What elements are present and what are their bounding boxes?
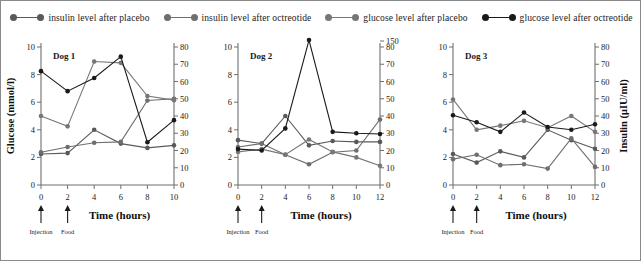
data-point: [569, 114, 574, 119]
y-tick-label-right: 0: [601, 180, 605, 190]
data-point: [474, 160, 479, 165]
data-point: [354, 140, 359, 145]
y-tick-label-right: 10: [386, 163, 395, 173]
x-tick-label: 8: [546, 192, 550, 202]
x-axis-title: Time (hours): [290, 209, 352, 222]
y-tick-label-right: 10: [180, 163, 189, 173]
data-point: [259, 148, 264, 153]
x-tick-label: 10: [567, 192, 576, 202]
data-point: [236, 138, 241, 143]
event-arrow-head: [450, 205, 456, 211]
y-tick-label-right: 50: [601, 94, 610, 104]
data-point: [474, 120, 479, 125]
data-point: [92, 140, 97, 145]
data-point: [354, 155, 359, 160]
data-point: [307, 143, 312, 148]
legend-label: glucose level after placebo: [363, 13, 467, 23]
event-label: Injection: [226, 228, 250, 235]
y-tick-label-right: 40: [386, 111, 395, 121]
data-point: [522, 110, 527, 115]
event-arrow-head: [38, 205, 44, 211]
data-point: [172, 118, 177, 123]
data-point: [522, 155, 527, 160]
y-tick-label-right: 70: [180, 59, 189, 69]
panel-title: Dog 1: [53, 51, 76, 61]
legend-entry: insulin level after octreotide: [164, 13, 312, 23]
x-tick-label: 6: [307, 192, 311, 202]
event-arrow-head: [235, 205, 241, 211]
legend-label: glucose level after octreotide: [520, 13, 633, 23]
data-point: [283, 114, 288, 119]
x-tick-label: 4: [92, 192, 97, 202]
y-tick-label-right: 70: [386, 59, 395, 69]
y-axis-title-right: Insulin (μIU/ml): [618, 79, 630, 153]
data-point: [593, 165, 598, 170]
data-point: [378, 140, 383, 145]
legend-entry: glucose level after octreotide: [482, 13, 633, 23]
event-arrow-head: [259, 205, 265, 211]
data-point: [65, 89, 70, 94]
x-tick-label: 0: [236, 192, 240, 202]
y-tick-label-right: 60: [601, 77, 610, 87]
y-tick-label-right: 0: [180, 180, 184, 190]
event-marker-food: Food: [255, 205, 269, 235]
y-tick-label-right: 80: [180, 42, 189, 52]
y-tick-label-right: 20: [386, 146, 395, 156]
data-point: [307, 162, 312, 167]
x-tick-label: 2: [65, 192, 69, 202]
y-tick-label-left: 0: [228, 180, 232, 190]
y-tick-label-right: 60: [180, 77, 189, 87]
data-point: [92, 76, 97, 81]
y-tick-label-left: 4: [31, 125, 36, 135]
y-tick-label-right-offscale: 150: [386, 36, 399, 46]
x-tick-label: 0: [39, 192, 43, 202]
data-point: [330, 139, 335, 144]
y-tick-label-right: 80: [601, 42, 610, 52]
data-point: [92, 59, 97, 64]
x-tick-label: 12: [591, 192, 600, 202]
y-tick-label-left: 8: [443, 70, 447, 80]
chart-legend: insulin level after placeboinsulin level…: [1, 13, 641, 23]
data-point: [119, 54, 124, 59]
data-point: [92, 128, 97, 133]
data-point: [451, 157, 456, 162]
y-tick-label-right: 10: [601, 163, 610, 173]
data-point: [172, 98, 177, 103]
event-arrow-head: [474, 205, 480, 211]
y-tick-label-right: 30: [180, 128, 189, 138]
panel-title: Dog 2: [250, 51, 273, 61]
y-tick-label-right: 50: [180, 94, 189, 104]
data-point: [65, 145, 70, 150]
data-point: [354, 148, 359, 153]
x-tick-label: 8: [145, 192, 149, 202]
series-0: [451, 128, 598, 165]
y-tick-label-right: 40: [601, 111, 610, 121]
series-line: [453, 99, 595, 131]
data-point: [593, 122, 598, 127]
data-point: [283, 152, 288, 157]
data-point: [474, 128, 479, 133]
chart-panels: 0246810010203040506070800246810Dog 1Time…: [1, 35, 641, 260]
x-tick-label: 6: [119, 192, 123, 202]
data-point: [378, 117, 383, 122]
data-point: [283, 126, 288, 131]
x-tick-label: 4: [498, 192, 503, 202]
y-axis-title-left: Glucose (mmol/l): [5, 77, 17, 154]
x-tick-label: 8: [331, 192, 335, 202]
chart-panel-dog-3: 024681001020304050607080024681012Dog 3Ti…: [427, 35, 640, 260]
y-tick-label-left: 2: [31, 152, 35, 162]
event-label: Injection: [441, 228, 465, 235]
data-point: [330, 130, 335, 135]
data-point: [498, 149, 503, 154]
event-marker-injection: Injection: [29, 205, 53, 235]
y-tick-label-left: 6: [443, 97, 447, 107]
data-point: [39, 114, 44, 119]
data-point: [307, 137, 312, 142]
data-point: [545, 166, 550, 171]
y-tick-label-left: 2: [228, 152, 232, 162]
x-tick-label: 6: [522, 192, 526, 202]
data-point: [451, 152, 456, 157]
data-point: [172, 143, 177, 148]
data-point: [145, 146, 150, 151]
figure-container: insulin level after placeboinsulin level…: [0, 0, 641, 261]
